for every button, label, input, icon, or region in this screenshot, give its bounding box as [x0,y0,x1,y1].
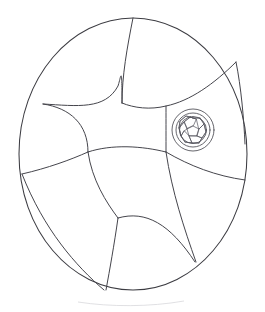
oval-interior-fill [19,18,247,290]
diagram-root [0,0,265,312]
circular-detail-inset [172,109,214,151]
oval-cross-section-figure [0,0,265,312]
